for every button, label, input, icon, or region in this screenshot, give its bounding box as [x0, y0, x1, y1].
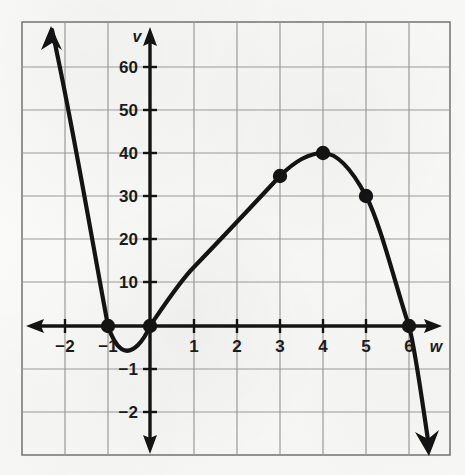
y-axis — [143, 27, 157, 454]
x-tick-label-3: 3 — [275, 337, 284, 356]
y-tick-label--1: −1 — [119, 360, 138, 379]
y-tick-label-50: 50 — [119, 101, 138, 120]
y-tick-label-40: 40 — [119, 144, 138, 163]
y-tick-label-30: 30 — [119, 187, 138, 206]
coordinate-plane-graph: −2 −1 1 2 3 4 5 6 60 50 40 30 20 10 −1 −… — [0, 0, 465, 475]
x-tick-label-4: 4 — [318, 337, 328, 356]
y-tick-label-20: 20 — [119, 230, 138, 249]
curve-up-arrow-icon — [41, 26, 62, 50]
x-tick-label-2: 2 — [232, 337, 241, 356]
y-axis-name: v — [133, 28, 143, 45]
horizontal-gridlines — [22, 67, 450, 412]
x-axis-name: w — [430, 338, 444, 355]
data-point-4-40[interactable] — [316, 146, 330, 160]
x-tick-label-6: 6 — [404, 337, 413, 356]
y-tick-label--2: −2 — [119, 403, 138, 422]
data-point-3-35[interactable] — [273, 169, 287, 183]
x-tick-label-1: 1 — [189, 337, 198, 356]
data-point-root-6[interactable] — [402, 319, 416, 333]
y-tick-label-10: 10 — [119, 273, 138, 292]
x-tick-label--1: −1 — [98, 337, 117, 356]
y-tick-label-60: 60 — [119, 58, 138, 77]
data-point-origin[interactable] — [143, 319, 157, 333]
data-point-root-neg1[interactable] — [101, 319, 115, 333]
x-axis — [26, 319, 442, 333]
data-point-5-30[interactable] — [359, 189, 373, 203]
x-tick-label-5: 5 — [361, 337, 370, 356]
graph-page: −2 −1 1 2 3 4 5 6 60 50 40 30 20 10 −1 −… — [0, 0, 465, 475]
x-tick-label--2: −2 — [55, 337, 74, 356]
